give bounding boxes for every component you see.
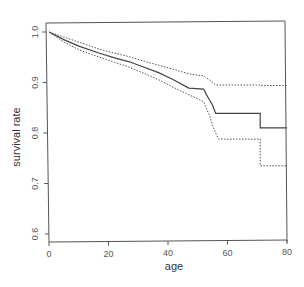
plot-frame — [46, 21, 287, 242]
y-axis-title: survival rate — [10, 107, 22, 166]
x-tick-label: 80 — [282, 247, 292, 257]
lower-confidence-bound-line — [49, 32, 287, 166]
x-tick-label: 40 — [163, 248, 173, 258]
series-layer — [49, 32, 287, 166]
plot-border-top — [46, 21, 285, 23]
plot-border-right — [285, 21, 287, 242]
survival-estimate-line — [49, 32, 287, 128]
y-tick-label: 0.6 — [30, 228, 40, 241]
survival-chart: 0.60.70.80.91.0 020406080 age survival r… — [0, 0, 304, 287]
y-tick-label: 0.7 — [30, 177, 40, 190]
y-tick-label: 0.9 — [30, 76, 40, 89]
x-tick-label: 0 — [46, 249, 51, 259]
x-tick-label: 20 — [103, 249, 113, 259]
y-tick-label: 0.8 — [30, 127, 40, 140]
x-axis-title: age — [165, 260, 183, 272]
y-tick-label: 1.0 — [30, 26, 40, 39]
x-tick-label: 60 — [222, 248, 232, 258]
x-axis-ticks: 020406080 — [46, 240, 292, 259]
